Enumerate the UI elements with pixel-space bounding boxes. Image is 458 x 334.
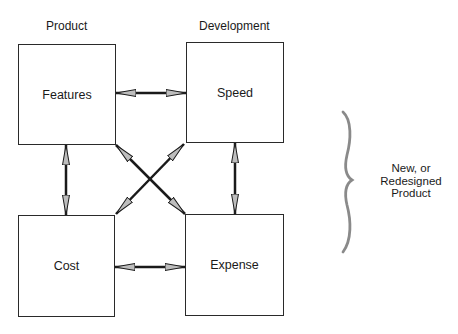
node-features-label: Features (42, 88, 91, 102)
brace-label: New, or Redesigned Product (376, 162, 446, 200)
brace-label-line-1: New, or (376, 162, 446, 175)
brace-label-line-3: Product (376, 187, 446, 200)
node-cost-label: Cost (54, 259, 80, 273)
node-speed: Speed (186, 42, 284, 143)
node-cost: Cost (18, 215, 115, 317)
node-expense: Expense (185, 214, 284, 316)
node-features: Features (18, 44, 116, 145)
curly-brace-icon (343, 112, 352, 252)
brace-label-line-2: Redesigned (376, 175, 446, 188)
node-speed-label: Speed (217, 86, 253, 100)
node-expense-label: Expense (210, 258, 259, 272)
